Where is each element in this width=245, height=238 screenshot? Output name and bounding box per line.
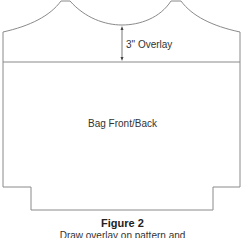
arrow-head-up-icon: [121, 26, 124, 30]
figure-title: Figure 2: [0, 217, 245, 229]
overlay-label: 3" Overlay: [126, 39, 172, 50]
pattern-outline: [3, 1, 240, 210]
arrow-head-down-icon: [121, 57, 124, 61]
piece-label: Bag Front/Back: [0, 118, 245, 129]
figure-caption: Draw overlay on pattern and: [0, 230, 245, 238]
